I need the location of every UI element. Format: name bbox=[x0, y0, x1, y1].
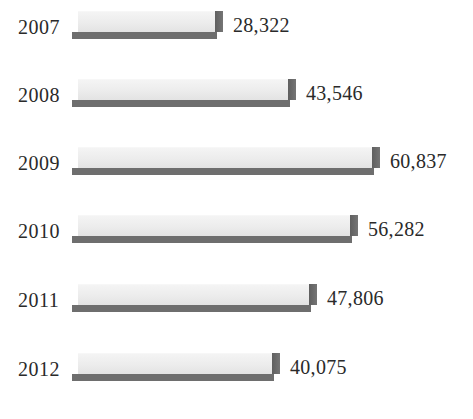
bar bbox=[78, 11, 223, 45]
bar-value-label: 43,546 bbox=[306, 80, 363, 106]
bar-base-shadow bbox=[72, 374, 274, 381]
bar-value-label: 47,806 bbox=[327, 285, 384, 311]
bar-side-shading bbox=[350, 215, 358, 236]
bar-front-face bbox=[78, 353, 272, 374]
bar-value-label: 60,837 bbox=[390, 148, 447, 174]
year-label: 2008 bbox=[18, 82, 76, 108]
bar-front-face bbox=[78, 11, 215, 32]
bar-side-face bbox=[288, 79, 296, 100]
bar bbox=[78, 353, 280, 387]
bar bbox=[78, 147, 380, 181]
bar bbox=[78, 284, 317, 318]
bar-side-face bbox=[215, 11, 223, 32]
bar bbox=[78, 79, 296, 113]
bar-row: 200843,546 bbox=[0, 76, 473, 144]
bar-row: 201147,806 bbox=[0, 281, 473, 349]
bar-value-label: 40,075 bbox=[290, 354, 347, 380]
year-label: 2010 bbox=[18, 218, 76, 244]
year-label: 2012 bbox=[18, 356, 76, 382]
bar bbox=[78, 215, 358, 249]
bar-base-shadow bbox=[72, 168, 374, 175]
bar-row: 200960,837 bbox=[0, 144, 473, 212]
bar-side-shading bbox=[372, 147, 380, 168]
bar-front-face bbox=[78, 215, 350, 236]
bar-front-face bbox=[78, 284, 309, 305]
bar-side-shading bbox=[288, 79, 296, 100]
bar-row: 200728,322 bbox=[0, 8, 473, 76]
bar-front-face bbox=[78, 147, 372, 168]
bar-front-face bbox=[78, 79, 288, 100]
bar-side-face bbox=[309, 284, 317, 305]
bar-row: 201056,282 bbox=[0, 212, 473, 280]
bar-side-shading bbox=[272, 353, 280, 374]
bar-side-face bbox=[350, 215, 358, 236]
bar-base-shadow bbox=[72, 32, 217, 39]
bar-side-shading bbox=[309, 284, 317, 305]
year-label: 2007 bbox=[18, 14, 76, 40]
bar-base-shadow bbox=[72, 236, 352, 243]
bar-row: 201240,075 bbox=[0, 350, 473, 418]
year-label: 2009 bbox=[18, 150, 76, 176]
bar-side-face bbox=[372, 147, 380, 168]
bar-base-shadow bbox=[72, 305, 311, 312]
bar-value-label: 56,282 bbox=[368, 216, 425, 242]
bar-side-shading bbox=[215, 11, 223, 32]
bar-chart: 200728,322200843,546200960,837201056,282… bbox=[0, 0, 473, 419]
bar-value-label: 28,322 bbox=[233, 12, 290, 38]
bar-side-face bbox=[272, 353, 280, 374]
bar-base-shadow bbox=[72, 100, 290, 107]
year-label: 2011 bbox=[18, 287, 76, 313]
